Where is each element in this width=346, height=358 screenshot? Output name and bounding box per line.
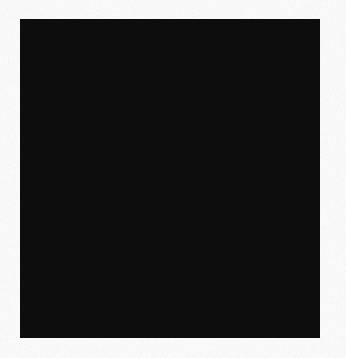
figure-container (0, 0, 346, 358)
black-plate-border (20, 19, 320, 338)
